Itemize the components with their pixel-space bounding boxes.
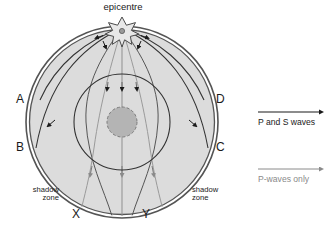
surface-point-label-y: Y: [142, 208, 150, 221]
surface-point-label-a: A: [16, 93, 24, 106]
epicentre-label: epicentre: [85, 2, 161, 12]
seismic-wave-diagram-page: epicentre A B C D X Y shadow zone shadow…: [0, 0, 333, 231]
surface-point-label-d: D: [216, 93, 225, 106]
surface-point-label-x: X: [72, 208, 80, 221]
shadow-zone-label-right: shadow zone: [192, 186, 246, 202]
inner-core-circle: [107, 107, 137, 137]
legend-label-p-waves-only: P-waves only: [258, 175, 333, 184]
surface-point-label-b: B: [16, 141, 24, 154]
shadow-zone-label-left: shadow zone: [5, 186, 59, 202]
surface-point-label-c: C: [216, 141, 225, 154]
legend-label-p-and-s-waves: P and S waves: [258, 118, 333, 127]
